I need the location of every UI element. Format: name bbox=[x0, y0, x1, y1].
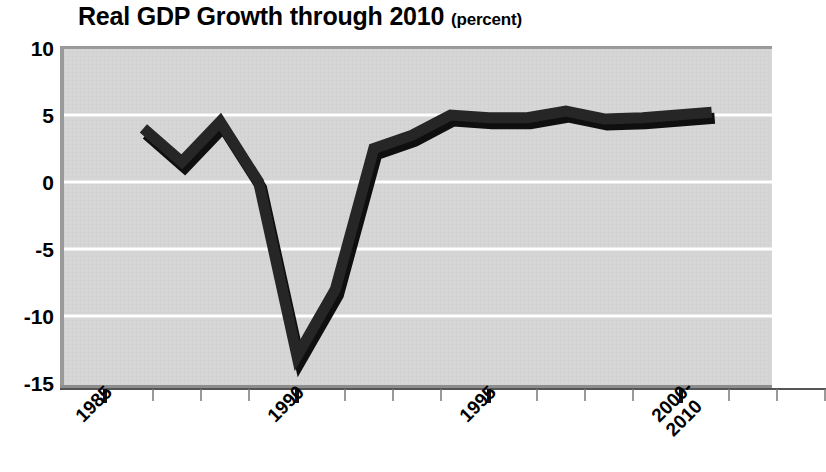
plot-background bbox=[60, 46, 772, 388]
plot-border-left bbox=[60, 46, 64, 388]
plot-border-top bbox=[60, 46, 772, 49]
gdp-growth-chart: Real GDP Growth through 2010 (percent) 1… bbox=[0, 0, 826, 472]
